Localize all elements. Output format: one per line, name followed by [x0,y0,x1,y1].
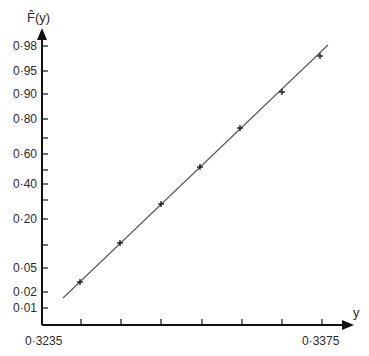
x-max-label: 0·3375 [302,334,340,348]
y-axis-title: F̂(y) [27,10,50,25]
y-tick-label: 0·40 [13,177,37,191]
y-tick-label: 0·05 [13,261,37,275]
y-axis-arrow-icon [37,28,47,40]
x-axis-arrow-icon [342,320,354,330]
x-axis-title: y [353,305,360,320]
x-min-label: 0·3235 [25,334,63,348]
y-tick-label: 0·02 [13,285,37,299]
data-point-marker [279,89,285,95]
probability-plot: 0·98 0·95 0·90 0·80 0·60 0·40 0·20 0·05 … [0,0,369,356]
y-tick-label: 0·20 [13,212,37,226]
fitted-line [63,45,328,298]
y-tick-label: 0·80 [13,112,37,126]
data-point-marker [237,125,243,131]
y-tick-label: 0·01 [13,301,37,315]
y-tick-label: 0·90 [13,87,37,101]
y-tick-label: 0·95 [13,64,37,78]
y-tick-label: 0·98 [13,39,37,53]
data-points [77,53,323,285]
y-tick-label: 0·60 [13,147,37,161]
